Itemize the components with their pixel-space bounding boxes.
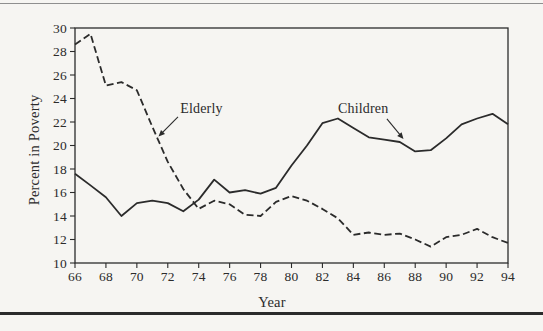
y-axis-title: Percent in Poverty [26,94,42,205]
bottom-divider-rule [0,312,543,315]
x-tick-label: 90 [439,269,453,284]
children-series-line [75,114,508,216]
x-tick-label: 80 [285,269,299,284]
y-tick-label: 10 [53,256,67,271]
x-tick-label: 68 [99,269,113,284]
x-tick-label: 74 [192,269,206,284]
annotation-label-elderly: Elderly [180,101,223,116]
x-tick-label: 84 [346,269,360,284]
y-tick-label: 12 [53,232,67,247]
y-tick-label: 22 [53,115,67,130]
y-tick-label: 14 [53,209,67,224]
y-tick-label: 24 [53,91,67,106]
x-tick-label: 94 [501,269,515,284]
x-tick-label: 88 [408,269,422,284]
x-tick-label: 82 [315,269,329,284]
y-tick-label: 26 [53,68,67,83]
x-axis-title: Year [258,294,286,310]
y-tick-label: 18 [53,162,67,177]
x-tick-label: 70 [130,269,144,284]
poverty-line-chart: 1012141618202224262830666870727476788082… [0,0,543,331]
y-tick-label: 28 [53,44,67,59]
y-tick-label: 30 [53,21,67,36]
annotation-arrow-elderly [161,117,178,134]
x-tick-label: 72 [161,269,175,284]
y-tick-label: 20 [53,138,67,153]
textbook-figure-page: 1012141618202224262830666870727476788082… [0,0,543,331]
x-tick-label: 86 [377,269,391,284]
annotation-label-children: Children [338,101,389,116]
y-tick-label: 16 [53,185,67,200]
x-tick-label: 76 [223,269,237,284]
x-tick-label: 66 [68,269,82,284]
x-tick-label: 92 [470,269,484,284]
plot-frame [75,28,508,263]
x-tick-label: 78 [254,269,268,284]
top-divider-rule [0,3,543,4]
annotation-arrow-children [387,119,402,137]
